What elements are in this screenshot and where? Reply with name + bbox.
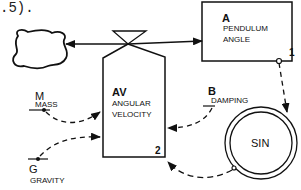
pendulum-angle-index: 1	[289, 48, 295, 58]
gravity-label: GRAVITY	[30, 177, 65, 185]
angular-velocity-index: 2	[155, 146, 161, 156]
cloud-icon	[13, 30, 67, 68]
link-sin-to-av	[168, 162, 232, 178]
valve-icon	[113, 31, 146, 44]
pendulum-angle-letter: A	[222, 13, 230, 24]
mass-label: MASS	[35, 101, 58, 109]
link-damping-to-av	[168, 108, 212, 128]
sin-label: SIN	[251, 138, 269, 149]
connector-dot	[232, 166, 236, 170]
connector-dot	[36, 157, 40, 161]
link-mass-to-av	[46, 112, 100, 123]
caption-fragment: .5).	[0, 1, 34, 15]
pendulum-angle-label-1: PENDULUM	[223, 25, 268, 33]
angular-velocity-label-2: VELOCITY	[112, 111, 152, 119]
gravity-letter: G	[29, 164, 38, 175]
link-gravity-to-av	[40, 137, 100, 156]
link-angle-to-sin	[279, 63, 287, 112]
angular-velocity-label-1: ANGULAR	[112, 100, 151, 108]
flow-to-pendulum-angle	[128, 41, 202, 44]
connector-dot	[277, 59, 282, 64]
pendulum-angle-label-2: ANGLE	[223, 36, 250, 44]
damping-label: DAMPING	[211, 97, 248, 105]
angular-velocity-letter: AV	[112, 87, 126, 98]
stock-flow-diagram: .5). A PENDULUM ANGLE 1 AV ANGULAR VELOC…	[0, 0, 301, 190]
